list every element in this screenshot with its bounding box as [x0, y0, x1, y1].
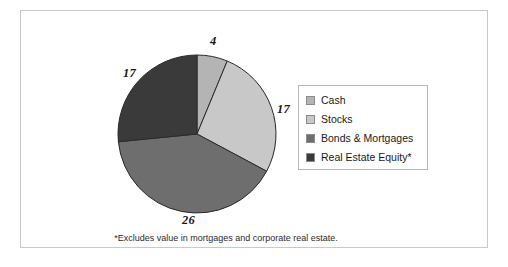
legend-swatch-stocks: [306, 115, 315, 124]
legend-label-cash: Cash: [321, 95, 346, 106]
legend-label-real-estate-equity: Real Estate Equity*: [321, 152, 411, 163]
legend-item-stocks: Stocks: [306, 110, 427, 129]
pie-label-cash: 4: [210, 35, 216, 48]
legend-swatch-cash: [306, 96, 315, 105]
legend-label-stocks: Stocks: [321, 114, 353, 125]
legend-label-bonds-mortgages: Bonds & Mortgages: [321, 133, 413, 144]
legend-swatch-real-estate-equity: [306, 153, 315, 162]
figure-frame: 4 17 26 17 Cash Stocks Bonds & Mortgages…: [20, 10, 488, 248]
pie-label-bonds-mortgages: 26: [182, 214, 195, 227]
pie-label-stocks: 17: [277, 103, 290, 116]
legend-item-real-estate-equity: Real Estate Equity*: [306, 148, 427, 167]
legend-item-bonds-mortgages: Bonds & Mortgages: [306, 129, 427, 148]
pie-chart: [117, 54, 277, 214]
chart-legend: Cash Stocks Bonds & Mortgages Real Estat…: [298, 85, 428, 170]
chart-footnote: *Excludes value in mortgages and corpora…: [61, 233, 391, 244]
pie-chart-svg: [117, 54, 277, 214]
legend-item-cash: Cash: [306, 91, 427, 110]
legend-swatch-bonds-mortgages: [306, 134, 315, 143]
pie-label-real-estate-equity: 17: [123, 67, 136, 80]
